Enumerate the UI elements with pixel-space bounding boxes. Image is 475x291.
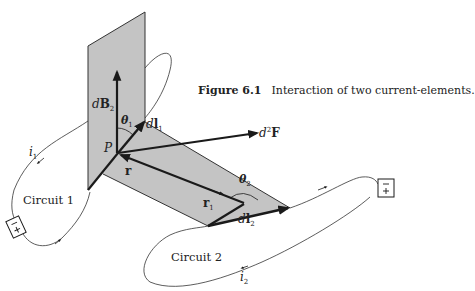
label-d2F: d2F (259, 127, 280, 139)
label-P: P (104, 142, 112, 154)
label-dB2: dB2 (92, 98, 114, 113)
label-i2: i2 (240, 271, 248, 286)
label-dl2: dl2 (238, 213, 255, 228)
figure-caption-text: Interaction of two current-elements. (271, 84, 474, 97)
label-r1: r1 (203, 197, 214, 212)
battery-circuit-2 (378, 179, 394, 197)
label-i1: i1 (29, 146, 37, 161)
label-theta1: θ1 (121, 115, 133, 129)
label-circuit-1: Circuit 1 (23, 193, 74, 207)
figure-caption: Figure 6.1Interaction of two current-ele… (198, 84, 475, 97)
label-circuit-2: Circuit 2 (171, 250, 222, 264)
label-dl1: dl1 (146, 118, 163, 133)
label-r: r (125, 165, 131, 177)
circuit-1-loop-back (145, 53, 171, 118)
current-arrow-i2 (242, 266, 248, 268)
current-arrow-i1 (38, 158, 44, 163)
label-theta2: θ2 (239, 174, 251, 188)
current-arrow-circuit2-top (318, 187, 326, 190)
figure-number: Figure 6.1 (198, 84, 261, 97)
